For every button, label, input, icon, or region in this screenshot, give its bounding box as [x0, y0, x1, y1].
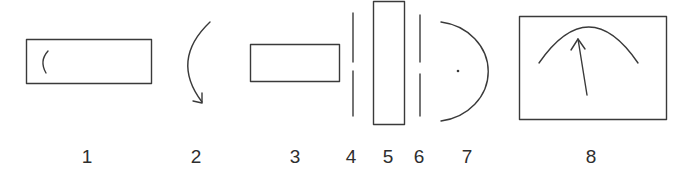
label-8: 8	[586, 147, 597, 166]
component-1-light-source	[27, 40, 152, 84]
curved-arrow-icon	[188, 22, 210, 102]
semicircle-detector	[441, 22, 488, 121]
label-2: 2	[191, 147, 202, 166]
meter-box	[520, 17, 667, 120]
filament-arc-icon	[43, 51, 48, 73]
box-3	[251, 45, 340, 82]
meter-needle-icon	[578, 39, 587, 95]
label-6: 6	[414, 147, 425, 166]
component-8-meter	[520, 17, 667, 120]
component-2-curved-arrow	[188, 22, 210, 103]
detector-center-dot	[457, 70, 460, 73]
component-3-box	[251, 45, 340, 82]
meter-scale-arc	[539, 27, 638, 63]
light-source-box	[27, 40, 152, 84]
tall-box-5	[374, 2, 405, 125]
label-4: 4	[346, 147, 357, 166]
component-7-detector	[441, 22, 488, 121]
label-3: 3	[290, 147, 301, 166]
label-1: 1	[82, 147, 93, 166]
label-5: 5	[383, 147, 394, 166]
component-5-sample-cell	[374, 2, 405, 125]
label-7: 7	[462, 147, 473, 166]
diagram-canvas	[0, 0, 686, 173]
